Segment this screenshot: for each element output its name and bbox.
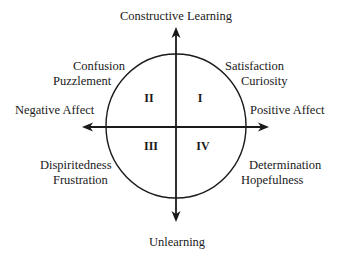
emotion-label: Puzzlement	[53, 74, 111, 88]
emotion-label: Satisfaction	[225, 59, 284, 73]
emotion-label: Determination	[249, 158, 321, 172]
quadrant-numeral-4: IV	[196, 139, 209, 153]
quadrant-numeral-2: II	[144, 91, 153, 105]
emotion-label: Confusion	[73, 59, 125, 73]
axis-label-bottom: Unlearning	[149, 235, 205, 249]
emotion-label: Frustration	[53, 173, 108, 187]
axis-label-right: Positive Affect	[250, 103, 324, 117]
axis-label-top: Constructive Learning	[120, 9, 232, 23]
quadrant-diagram-graphics	[0, 0, 342, 257]
vertical-axis	[172, 27, 181, 222]
axis-label-left: Negative Affect	[15, 103, 94, 117]
quadrant-numeral-3: III	[144, 139, 158, 153]
quadrant-numeral-1: I	[198, 91, 203, 105]
emotion-label: Dispiritedness	[40, 158, 112, 172]
emotion-label: Curiosity	[241, 74, 288, 88]
emotion-label: Hopefulness	[241, 173, 304, 187]
